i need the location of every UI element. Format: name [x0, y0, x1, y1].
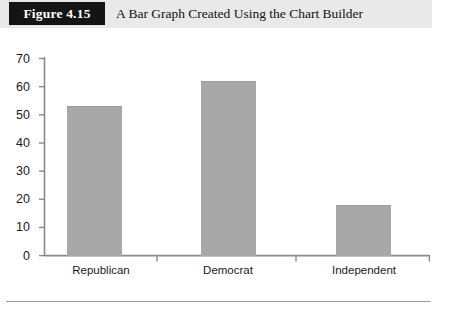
bar-republican: [67, 106, 122, 255]
bar-chart: 70 60 50 40 30 20 10 0 Republican Democr…: [0, 28, 469, 302]
y-tick-label-40: 40: [4, 136, 30, 150]
figure-title: A Bar Graph Created Using the Chart Buil…: [116, 2, 363, 25]
x-axis-ticks: [157, 256, 429, 262]
bar-democrat: [201, 81, 256, 256]
y-tick-label-0: 0: [4, 249, 30, 263]
x-tick-label-republican: Republican: [72, 264, 130, 276]
figure-number-box: Figure 4.15: [9, 2, 105, 25]
figure-header-band: Figure 4.15 A Bar Graph Created Using th…: [0, 0, 432, 28]
x-tick-label-democrat: Democrat: [203, 264, 253, 276]
y-tick-label-60: 60: [4, 80, 30, 94]
y-tick-label-20: 20: [4, 192, 30, 206]
y-tick-label-70: 70: [4, 52, 30, 66]
y-tick-label-50: 50: [4, 108, 30, 122]
figure-bottom-rule: [6, 301, 430, 302]
y-tick-label-10: 10: [4, 220, 30, 234]
x-tick-label-independent: Independent: [332, 264, 396, 276]
bar-independent: [336, 205, 391, 256]
figure-number-label: Figure 4.15: [9, 2, 105, 25]
y-axis-ticks: [39, 59, 45, 256]
y-tick-label-30: 30: [4, 164, 30, 178]
